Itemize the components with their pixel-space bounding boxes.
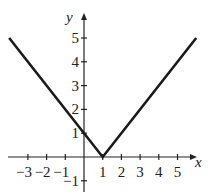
y-tick-label: 4 [72, 54, 80, 70]
series-line [9, 38, 196, 157]
x-tick-label: −3 [16, 164, 32, 180]
x-tick-label: 5 [174, 164, 182, 180]
x-tick-label: 2 [118, 164, 126, 180]
series [9, 38, 196, 157]
y-tick-label: 2 [72, 101, 80, 117]
x-tick-label: 4 [155, 164, 163, 180]
ticks [28, 38, 178, 181]
tick-labels: −3−2−112345−112345 [16, 30, 181, 189]
y-axis-arrow-icon [81, 13, 87, 20]
x-tick-label: 1 [99, 164, 107, 180]
x-tick-label: −2 [35, 164, 51, 180]
y-tick-label: 5 [72, 30, 80, 46]
y-tick-label: 1 [72, 125, 80, 141]
chart-plot: −3−2−112345−112345 x y [0, 0, 213, 192]
y-axis-label: y [64, 9, 73, 25]
y-tick-label: −1 [63, 173, 79, 189]
x-tick-label: 3 [136, 164, 144, 180]
y-tick-label: 3 [72, 78, 80, 94]
x-axis-label: x [194, 154, 202, 170]
